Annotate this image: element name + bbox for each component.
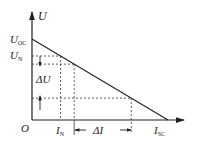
characteristic-line <box>32 39 168 120</box>
delta-i-label: ΔI <box>92 124 104 136</box>
characteristic-diagram: U O UOC UN ΔU ΔI IN ISC <box>0 0 215 145</box>
u-n-label: UN <box>10 49 23 62</box>
y-axis-label: U <box>38 9 48 23</box>
i-n-label: IN <box>55 124 65 137</box>
delta-u-label: ΔU <box>35 73 51 85</box>
origin-label: O <box>21 122 29 134</box>
i-sc-label: ISC <box>153 124 165 137</box>
u-oc-label: UOC <box>10 33 26 46</box>
